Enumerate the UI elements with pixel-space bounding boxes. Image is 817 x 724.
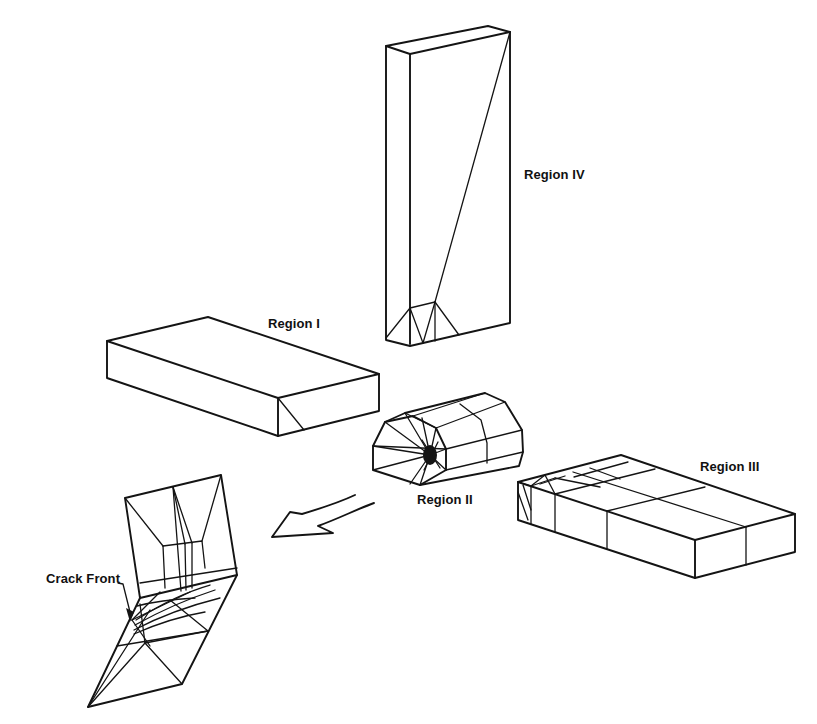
region-ii-label: Region II	[417, 492, 473, 507]
region-iv-block	[386, 26, 510, 346]
region-iii-label: Region III	[700, 459, 760, 474]
mesh-diagram	[0, 0, 817, 724]
crack-front-label: Crack Front	[46, 571, 120, 586]
region-i-label: Region I	[268, 316, 320, 331]
region-i-block	[107, 317, 379, 436]
region-ii-block	[373, 393, 523, 485]
transition-arrow	[272, 495, 374, 537]
crack-front-mesh	[88, 475, 237, 707]
region-iv-label: Region IV	[524, 167, 585, 182]
